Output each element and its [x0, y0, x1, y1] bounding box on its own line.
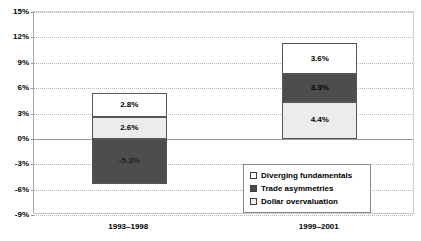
y-axis-tick-label: 6%: [0, 83, 29, 92]
legend-item: Diverging fundamentals: [250, 169, 365, 182]
legend-swatch-icon: [250, 198, 257, 205]
legend-label: Trade asymmetries: [261, 185, 334, 193]
bar-segment: 2.6%: [92, 117, 167, 139]
value-axis-line: [33, 11, 34, 214]
gridline: [34, 215, 413, 216]
legend-swatch-icon: [250, 172, 257, 179]
y-axis-tick: [31, 215, 34, 216]
y-axis-labels: 15%12%9%6%3%0%-3%-6%-9%: [0, 11, 30, 214]
bar-value-label: -5.3%: [119, 157, 140, 165]
y-axis-tick-label: -9%: [0, 210, 29, 219]
bar-segment: 4.4%: [282, 102, 357, 139]
category-axis-line: [33, 213, 414, 214]
bar-value-label: 2.6%: [120, 124, 138, 132]
x-axis-category-label: 1999–2001: [299, 222, 339, 231]
legend-item: Trade asymmetries: [250, 182, 365, 195]
bar-value-label: 3.3%: [311, 84, 329, 92]
y-axis-tick-label: -3%: [0, 159, 29, 168]
legend-swatch-icon: [250, 185, 257, 192]
y-axis-tick-label: 15%: [0, 7, 29, 16]
bar-segment: 3.6%: [282, 43, 357, 73]
bar-value-label: 4.4%: [311, 116, 329, 124]
stacked-bar-chart: 15%12%9%6%3%0%-3%-6%-9% 2.6%2.8%-5.3%4.4…: [0, 0, 421, 241]
gridline: [34, 37, 413, 38]
bar-segment: -5.3%: [92, 139, 167, 184]
y-axis-tick-label: 12%: [0, 32, 29, 41]
gridline: [34, 12, 413, 13]
legend-label: Dollar overvaluation: [261, 198, 338, 206]
x-axis-category-label: 1993–1998: [108, 222, 148, 231]
y-axis-tick-label: 0%: [0, 133, 29, 142]
y-axis-tick-label: -6%: [0, 184, 29, 193]
bar-value-label: 3.6%: [311, 55, 329, 63]
y-axis-tick-label: 9%: [0, 57, 29, 66]
chart-legend: Diverging fundamentalsTrade asymmetriesD…: [243, 164, 371, 213]
legend-label: Diverging fundamentals: [261, 172, 352, 180]
bar-segment: 2.8%: [92, 93, 167, 117]
bar-value-label: 2.8%: [120, 101, 138, 109]
bar-segment: 3.3%: [282, 74, 357, 102]
legend-item: Dollar overvaluation: [250, 195, 365, 208]
y-axis-tick-label: 3%: [0, 108, 29, 117]
